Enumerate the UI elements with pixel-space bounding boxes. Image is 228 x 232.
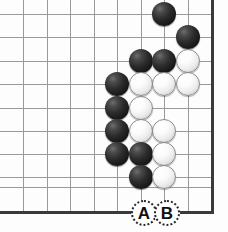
board-edge-right [211,0,214,214]
grid-line-vertical-0 [23,0,24,211]
white-stone [176,72,200,96]
grid-line-horizontal-7 [0,177,211,178]
black-stone [129,142,153,166]
black-stone [105,96,129,120]
grid-line-horizontal-0 [0,14,211,15]
black-stone [105,119,129,143]
grid-line-vertical-1 [47,0,48,211]
point-marker-label: A [138,205,150,222]
black-stone [105,72,129,96]
white-stone [129,96,153,120]
point-marker-b: B [154,200,180,226]
black-stone [129,49,153,73]
white-stone [152,119,176,143]
grid-line-vertical-2 [70,0,71,211]
white-stone [129,72,153,96]
go-board-diagram: AB [0,0,228,232]
white-stone [152,142,176,166]
grid-line-horizontal-8 [0,187,211,188]
black-stone [176,25,200,49]
white-stone [152,72,176,96]
white-stone [129,119,153,143]
black-stone [152,49,176,73]
black-stone [105,142,129,166]
black-stone [152,2,176,26]
black-stone [129,165,153,189]
white-stone [176,49,200,73]
white-stone [152,165,176,189]
board-edge-bottom [0,211,214,214]
point-marker-label: B [161,205,173,222]
grid-line-vertical-3 [94,0,95,211]
